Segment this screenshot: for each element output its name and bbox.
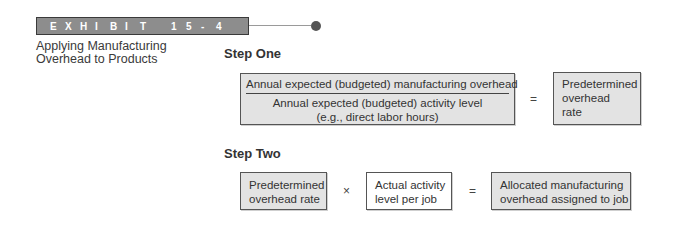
result-line: overhead (562, 91, 640, 105)
fraction-denominator-line2: (e.g., direct labor hours) (241, 110, 514, 124)
exhibit-number: 1 5 - 4 (171, 21, 231, 32)
exhibit-char: E (50, 21, 65, 32)
box-line: Actual activity (375, 178, 451, 192)
exhibit-word: E X H I B I T (50, 21, 155, 32)
exhibit-number-char: - (201, 21, 216, 32)
rate-formula-fraction-box: Annual expected (budgeted) manufacturing… (240, 73, 515, 125)
allocated-overhead-box: Allocated manufacturing overhead assigne… (491, 172, 631, 210)
exhibit-char: T (140, 21, 155, 32)
result-line: rate (562, 105, 640, 119)
subtitle-line: Overhead to Products (36, 53, 216, 66)
connector-line (249, 25, 311, 26)
connector-dot-icon (311, 21, 321, 31)
predetermined-rate-box: Predetermined overhead rate (553, 72, 641, 125)
box-line: level per job (375, 192, 451, 206)
exhibit-label-bar: E X H I B I T 1 5 - 4 (36, 17, 249, 35)
exhibit-subtitle: Applying Manufacturing Overhead to Produ… (36, 40, 216, 66)
exhibit-char: I (95, 21, 110, 32)
equals-operator: = (469, 184, 476, 198)
step-one-heading: Step One (224, 46, 281, 61)
exhibit-char: B (110, 21, 125, 32)
result-line: Predetermined (562, 77, 640, 91)
exhibit-char: X (65, 21, 80, 32)
box-line: Predetermined (249, 178, 326, 192)
fraction-numerator: Annual expected (budgeted) manufacturing… (246, 77, 509, 94)
box-line: overhead assigned to job (500, 192, 630, 206)
exhibit-number-char: 5 (186, 21, 201, 32)
exhibit-char: I (125, 21, 140, 32)
exhibit-char: H (80, 21, 95, 32)
box-line: Allocated manufacturing (500, 178, 630, 192)
equals-operator: = (530, 92, 537, 106)
fraction-denominator-line1: Annual expected (budgeted) activity leve… (241, 96, 514, 110)
predetermined-rate-input-box: Predetermined overhead rate (240, 172, 327, 210)
step-two-heading: Step Two (224, 146, 281, 161)
box-line: overhead rate (249, 192, 326, 206)
exhibit-number-char: 4 (216, 21, 231, 32)
multiply-operator: × (343, 184, 350, 198)
actual-activity-box: Actual activity level per job (366, 172, 452, 210)
exhibit-number-char: 1 (171, 21, 186, 32)
